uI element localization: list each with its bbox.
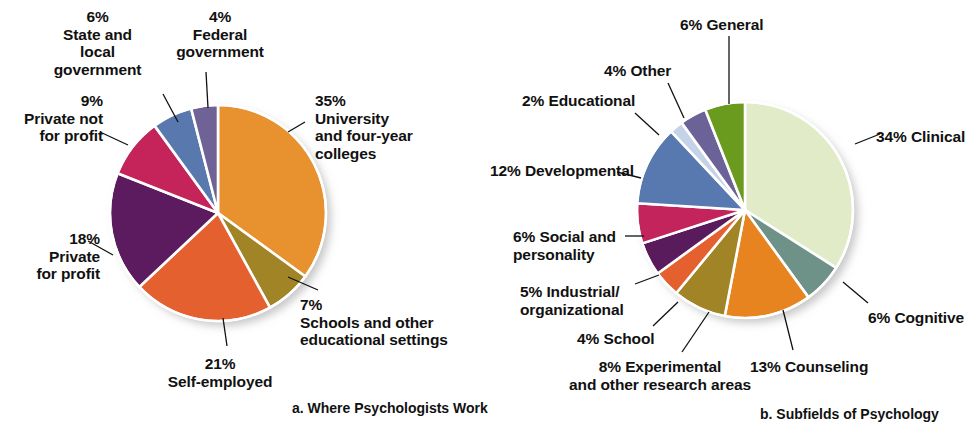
leader-line-experimental: [682, 312, 709, 352]
pie-label-general: 6% General: [680, 16, 780, 34]
pie-label-industrial: 5% Industrial/ organizational: [520, 283, 650, 318]
leader-line-private_not_for_profit: [100, 132, 128, 145]
pie-label-developmental: 12% Developmental: [490, 162, 650, 180]
pie-label-experimental: 8% Experimental and other research areas: [565, 358, 755, 393]
pie-label-state_local: 6% State and local government: [45, 8, 150, 78]
leader-line-counseling: [783, 310, 793, 350]
pie-label-self_employed: 21% Self-employed: [140, 355, 300, 390]
leader-line-cognitive: [843, 282, 868, 303]
pie-label-cognitive: 6% Cognitive: [868, 309, 974, 327]
leader-line-school: [653, 302, 678, 326]
pie-label-social: 6% Social and personality: [513, 228, 638, 263]
figure-canvas: 35%7%21%18%9%6%4%34%6%13%8%4%5%6%12%2%4%…: [0, 0, 974, 436]
pie-label-federal: 4% Federal government: [165, 8, 275, 61]
pie-where-psychologists-work: 35%7%21%18%9%6%4%: [88, 72, 326, 346]
chart-caption-subfields-of-psychology: b. Subfields of Psychology: [760, 406, 939, 422]
pie-label-counseling: 13% Counseling: [750, 358, 880, 376]
leader-line-federal: [206, 72, 208, 108]
pie-label-other: 4% Other: [604, 62, 689, 80]
pie-label-schools: 7% Schools and other educational setting…: [300, 296, 480, 349]
pie-label-clinical: 34% Clinical: [876, 128, 974, 146]
leader-line-educational: [635, 113, 659, 135]
leader-line-university: [288, 122, 305, 132]
pie-subfields-of-psychology: 34%6%13%8%4%5%6%12%2%4%6%: [617, 36, 880, 352]
pie-label-educational: 2% Educational: [522, 92, 647, 110]
pie-label-private_for_profit: 18% Private for profit: [10, 230, 100, 283]
chart-caption-where-psychologists-work: a. Where Psychologists Work: [292, 400, 488, 416]
leader-line-other: [668, 83, 684, 118]
pie-label-school: 4% School: [577, 330, 667, 348]
pie-label-private_not_for_profit: 9% Private not for profit: [8, 92, 103, 145]
pie-label-university: 35% University and four-year colleges: [315, 92, 465, 162]
